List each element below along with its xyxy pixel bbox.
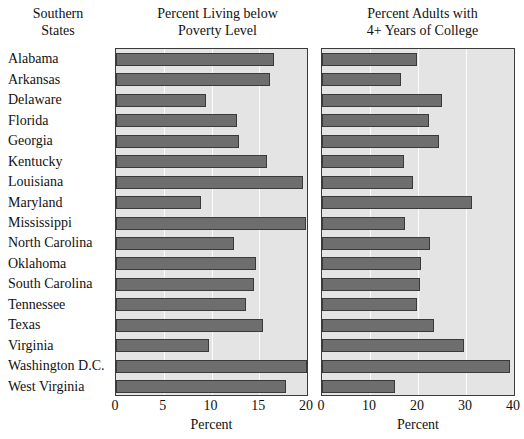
bar: [322, 94, 442, 107]
gridline: [466, 49, 467, 395]
bar: [322, 237, 430, 250]
bar: [322, 217, 405, 230]
states-header-line1: Southern: [8, 5, 108, 22]
category-label: Washington D.C.: [8, 359, 112, 373]
bar: [116, 360, 307, 373]
category-label: Arkansas: [8, 73, 112, 87]
category-label: Virginia: [8, 339, 112, 353]
axis-tick-label: 20: [410, 398, 424, 414]
bar: [116, 319, 263, 332]
axis-tick-label: 10: [362, 398, 376, 414]
axis-tick-label: 40: [506, 398, 520, 414]
bar: [116, 53, 274, 66]
category-label: Kentucky: [8, 155, 112, 169]
axis-tick-label: 5: [159, 398, 166, 414]
axis-tick-label: 30: [458, 398, 472, 414]
bar: [322, 380, 395, 393]
bar: [116, 196, 201, 209]
bar: [322, 278, 420, 291]
category-label: North Carolina: [8, 236, 112, 250]
category-label-column: AlabamaArkansasDelawareFloridaGeorgiaKen…: [8, 48, 112, 396]
category-label: Texas: [8, 318, 112, 332]
bar: [322, 53, 417, 66]
bar: [322, 360, 510, 373]
bar: [116, 94, 206, 107]
axis-tick-label: 0: [112, 398, 119, 414]
axis-tick-label: 10: [204, 398, 218, 414]
category-label: Georgia: [8, 134, 112, 148]
bar: [322, 176, 413, 189]
bar: [116, 114, 237, 127]
bar: [322, 257, 421, 270]
bar: [116, 155, 267, 168]
bar: [322, 135, 439, 148]
bar: [322, 114, 429, 127]
category-label: Delaware: [8, 93, 112, 107]
category-label: Louisiana: [8, 175, 112, 189]
axis-tick-label: 15: [251, 398, 265, 414]
left-title-line1: Percent Living below: [130, 5, 305, 22]
college-plot-area: [321, 48, 515, 396]
bar: [116, 298, 246, 311]
bar-chart-figure: Southern States Percent Living below Pov…: [0, 0, 524, 439]
bar: [116, 257, 256, 270]
category-label: Alabama: [8, 52, 112, 66]
poverty-plot-area: [115, 48, 308, 396]
category-label: Mississippi: [8, 216, 112, 230]
category-label: West Virginia: [8, 380, 112, 394]
states-column-header: Southern States: [8, 5, 108, 39]
bar: [322, 73, 401, 86]
category-label: Tennessee: [8, 298, 112, 312]
bar: [116, 73, 270, 86]
bar: [116, 176, 303, 189]
right-panel-title: Percent Adults with 4+ Years of College: [330, 5, 515, 39]
right-title-line1: Percent Adults with: [330, 5, 515, 22]
category-label: Maryland: [8, 196, 112, 210]
bar: [116, 135, 239, 148]
right-title-line2: 4+ Years of College: [330, 22, 515, 39]
left-x-axis: 05101520: [115, 398, 308, 416]
left-panel-title: Percent Living below Poverty Level: [130, 5, 305, 39]
bar: [116, 217, 306, 230]
states-header-line2: States: [8, 22, 108, 39]
bar: [322, 155, 404, 168]
left-title-line2: Poverty Level: [130, 22, 305, 39]
category-label: Florida: [8, 114, 112, 128]
bar: [116, 380, 286, 393]
axis-tick-label: 0: [318, 398, 325, 414]
bar: [116, 237, 234, 250]
right-x-axis-label: Percent: [321, 416, 515, 433]
right-x-axis: 010203040: [321, 398, 515, 416]
bar: [116, 278, 254, 291]
bar: [322, 298, 417, 311]
bar: [322, 319, 434, 332]
left-x-axis-label: Percent: [115, 416, 308, 433]
bar: [116, 339, 209, 352]
bar: [322, 339, 464, 352]
axis-tick-label: 20: [299, 398, 313, 414]
bar: [322, 196, 472, 209]
category-label: South Carolina: [8, 277, 112, 291]
category-label: Oklahoma: [8, 257, 112, 271]
